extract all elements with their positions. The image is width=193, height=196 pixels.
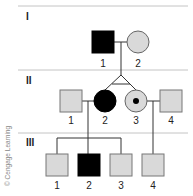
individual-label-II-1: 1 [68,115,74,126]
individual-label-III-1: 1 [54,180,60,191]
individual-label-III-2: 2 [86,180,92,191]
individual-I-2-unaffected-female [127,31,149,53]
individual-label-III-3: 3 [118,180,124,191]
individual-III-3-unaffected-male [110,154,132,176]
individual-label-II-2: 2 [102,115,108,126]
individual-label-III-4: 4 [150,180,156,191]
individual-II-4-unaffected-male [160,90,182,112]
twin-line-left [105,75,121,90]
individual-II-2-affected-female [94,90,116,112]
generation-label-I: I [26,11,29,22]
individual-label-I-2: 2 [135,58,141,69]
individual-III-4-unaffected-male [142,154,164,176]
individual-II-1-unaffected-male [60,90,82,112]
twin-line-right [121,75,136,90]
copyright-credit: © Cengage Learning [4,126,12,186]
individual-label-II-4: 4 [168,115,174,126]
carrier-dot-icon [133,98,139,104]
individual-III-2-affected-male [78,154,100,176]
individual-III-1-unaffected-male [46,154,68,176]
individual-I-1-affected-male [92,31,114,53]
generation-label-II: II [26,75,32,86]
pedigree-chart: I II III 1 2 1 2 3 4 1 2 3 4 © Cengage L… [0,0,193,196]
generation-label-III: III [26,137,35,148]
individual-label-II-3: 3 [133,115,139,126]
individual-label-I-1: 1 [100,58,106,69]
